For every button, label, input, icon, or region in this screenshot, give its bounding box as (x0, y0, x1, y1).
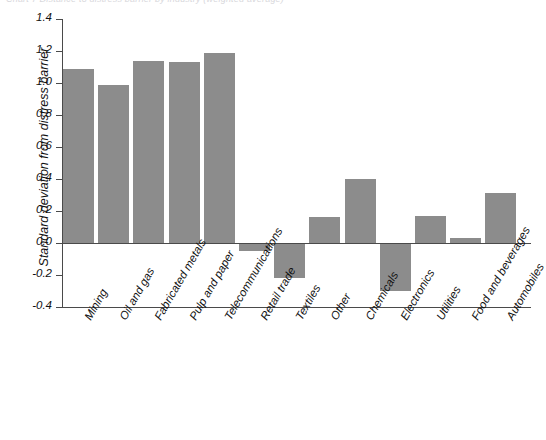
y-tick-mark (56, 19, 62, 20)
y-tick-mark (56, 307, 62, 308)
y-tick-label: 0.8 (12, 107, 52, 119)
bar-pulp-and-paper (169, 62, 200, 243)
y-tick-label: 1.4 (12, 11, 52, 23)
y-tick-label: 0.6 (12, 139, 52, 151)
y-tick-mark (56, 147, 62, 148)
y-tick-label: -0.4 (12, 299, 52, 311)
y-axis-title: Standard deviation from distress barrier (37, 17, 51, 297)
y-tick-mark (56, 51, 62, 52)
bar-utilities (415, 216, 446, 243)
zero-baseline (62, 243, 531, 244)
y-tick-mark (56, 179, 62, 180)
y-tick-label: 0.0 (12, 235, 52, 247)
bar-chemicals (345, 179, 376, 243)
bar-oil-and-gas (98, 85, 129, 243)
bar-automobiles (485, 193, 516, 243)
y-tick-mark (56, 211, 62, 212)
bar-mining (63, 69, 94, 243)
bar-fabricated-metals (133, 61, 164, 243)
cropped-chart-title: Chart 7 Distance to distress barrier by … (0, 0, 543, 7)
plot-area (63, 19, 530, 307)
y-tick-label: 0.2 (12, 203, 52, 215)
bar-other (309, 217, 340, 243)
y-tick-label: 0.4 (12, 171, 52, 183)
y-tick-label: -0.2 (12, 267, 52, 279)
y-tick-mark (56, 275, 62, 276)
bar-telecommunications (204, 53, 235, 243)
y-tick-label: 1.0 (12, 75, 52, 87)
y-tick-mark (56, 83, 62, 84)
y-tick-label: 1.2 (12, 43, 52, 55)
y-tick-mark (56, 115, 62, 116)
